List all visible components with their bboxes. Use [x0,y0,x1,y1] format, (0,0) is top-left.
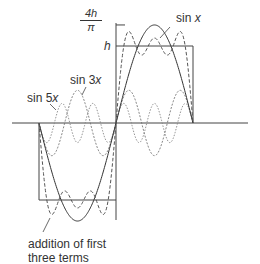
sin-x-label: sin x [176,12,201,25]
sin-5x-var: x [52,91,58,105]
h-label: h [104,40,111,53]
peak-label: 4h π [80,8,102,33]
sin-3x-label: sin 3x [70,74,101,87]
leader-sin-3x [82,87,86,95]
sin-3x-var: x [95,73,101,87]
h-text: h [104,39,111,53]
sum-caption: addition of first three terms [28,237,106,264]
square-wave-diagram [0,0,260,264]
sin-x-text: sin [176,11,195,25]
caption-line-1: addition of first [28,237,106,251]
sin-3x-text: sin 3 [70,73,95,87]
sin-5x-label: sin 5x [27,92,58,105]
leader-sum [43,218,50,232]
sin-x-var: x [195,11,201,25]
peak-numerator: 4h [80,8,102,19]
sin-5x-text: sin 5 [27,91,52,105]
caption-line-2: three terms [28,251,106,264]
peak-denominator: π [80,22,102,33]
